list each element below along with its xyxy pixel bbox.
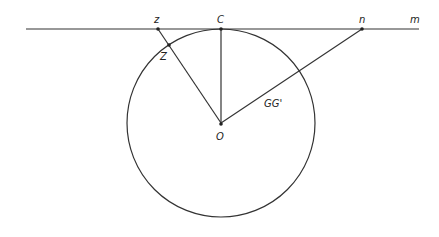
label-m: m (410, 14, 420, 25)
segment-z-O (158, 29, 221, 123)
point-O (219, 122, 223, 126)
point-C (219, 27, 223, 31)
point-z (156, 27, 160, 31)
label-GG: GG' (264, 98, 282, 109)
geometry-diagram: z C n m Z O GG' (0, 0, 439, 237)
point-n (360, 27, 364, 31)
point-Z (167, 43, 171, 47)
label-n: n (359, 14, 365, 25)
label-Z: Z (159, 51, 168, 62)
label-O: O (216, 131, 224, 142)
label-z: z (153, 14, 160, 25)
segment-n-O (221, 29, 362, 123)
label-C: C (217, 14, 224, 25)
